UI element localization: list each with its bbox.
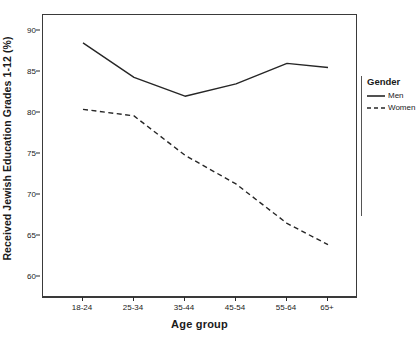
- y-tick-label: 70: [27, 190, 36, 199]
- y-tick-label: 85: [27, 67, 36, 76]
- legend-label: Men: [388, 91, 404, 100]
- legend-item-women[interactable]: Women: [367, 102, 420, 113]
- y-tick-mark: [36, 194, 40, 195]
- x-tick-label: 18-24: [72, 303, 92, 312]
- legend-item-men[interactable]: Men: [367, 90, 420, 101]
- y-tick-label: 90: [27, 26, 36, 35]
- y-tick-mark: [36, 71, 40, 72]
- x-tick-mark: [82, 297, 83, 301]
- x-tick-label: 25-34: [123, 303, 143, 312]
- dashed-line-icon: [367, 104, 385, 112]
- x-tick-label: 45-54: [225, 303, 245, 312]
- y-tick-mark: [36, 235, 40, 236]
- y-axis-ticks: 60657075808590: [14, 14, 40, 297]
- legend-label: Women: [388, 103, 415, 112]
- y-tick-mark: [36, 30, 40, 31]
- plot-area: [42, 14, 357, 297]
- legend-title: Gender: [367, 76, 420, 87]
- series-line-women: [83, 109, 328, 244]
- solid-line-icon: [367, 92, 385, 100]
- y-tick-label: 65: [27, 231, 36, 240]
- plot-svg: [43, 15, 357, 297]
- x-axis-title: Age group: [42, 318, 357, 330]
- x-tick-mark: [286, 297, 287, 301]
- y-tick-mark: [36, 153, 40, 154]
- x-tick-mark: [235, 297, 236, 301]
- x-tick-mark: [184, 297, 185, 301]
- x-tick-mark: [133, 297, 134, 301]
- y-tick-mark: [36, 112, 40, 113]
- series-line-men: [83, 43, 328, 96]
- legend-entries: MenWomen: [360, 90, 420, 113]
- y-tick-label: 60: [27, 272, 36, 281]
- x-tick-label: 65+: [320, 303, 334, 312]
- y-tick-label: 75: [27, 149, 36, 158]
- x-tick-label: 35-44: [174, 303, 194, 312]
- y-tick-mark: [36, 276, 40, 277]
- x-tick-mark: [327, 297, 328, 301]
- x-tick-label: 55-64: [276, 303, 296, 312]
- x-axis-ticks: 18-2425-3435-4445-5455-6465+: [0, 297, 420, 315]
- y-tick-label: 80: [27, 108, 36, 117]
- y-axis-title: Received Jewish Education Grades 1-12 (%…: [0, 0, 14, 297]
- legend: Gender MenWomen: [360, 76, 420, 114]
- line-chart: Received Jewish Education Grades 1-12 (%…: [0, 0, 420, 343]
